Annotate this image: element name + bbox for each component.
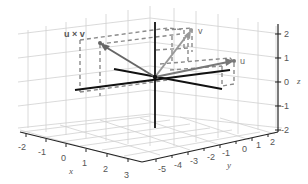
y-tick: -3 xyxy=(190,156,198,166)
u-label: u xyxy=(240,56,245,66)
y-tick: -1 xyxy=(222,148,230,158)
y-axis-label: y xyxy=(226,160,231,170)
z-tick: 1 xyxy=(284,53,289,63)
3d-vector-plot: -2 -1 0 1 2 3 x -5 -4 -3 -2 -1 0 1 2 y 2… xyxy=(0,0,308,184)
y-tick: 0 xyxy=(242,144,247,154)
y-tick: 2 xyxy=(270,137,275,147)
x-tick: 3 xyxy=(124,170,129,180)
y-tick: -5 xyxy=(158,164,166,174)
x-axis-label: x xyxy=(68,166,73,176)
z-tick: 0 xyxy=(284,77,289,87)
x-tick-labels: -2 -1 0 1 2 3 x xyxy=(18,142,129,180)
u-cross-v-label: u × v xyxy=(64,29,85,39)
x-tick: -2 xyxy=(18,142,26,152)
z-axis-label: z xyxy=(296,76,301,86)
origin-point xyxy=(153,75,157,79)
z-tick: -2 xyxy=(281,125,289,135)
y-tick-labels: -5 -4 -3 -2 -1 0 1 2 y xyxy=(158,137,275,174)
z-tick-labels: 2 1 0 -1 -2 z xyxy=(281,29,301,135)
z-tick: -1 xyxy=(281,101,289,111)
y-tick: 1 xyxy=(256,140,261,150)
z-tick: 2 xyxy=(284,29,289,39)
x-tick: 2 xyxy=(103,164,108,174)
y-tick: -4 xyxy=(174,160,182,170)
y-tick: -2 xyxy=(207,152,215,162)
x-tick: -1 xyxy=(38,147,46,157)
x-tick: 1 xyxy=(82,158,87,168)
axis-frame xyxy=(20,24,278,162)
v-label: v xyxy=(198,26,203,36)
x-tick: 0 xyxy=(61,153,66,163)
